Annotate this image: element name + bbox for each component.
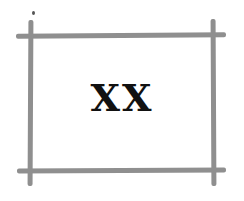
stray-mark bbox=[32, 11, 35, 15]
frame-bottom-bar bbox=[17, 167, 226, 173]
center-label: XX bbox=[0, 78, 244, 118]
framed-figure: XX bbox=[0, 0, 244, 201]
frame-top-bar bbox=[16, 32, 226, 38]
